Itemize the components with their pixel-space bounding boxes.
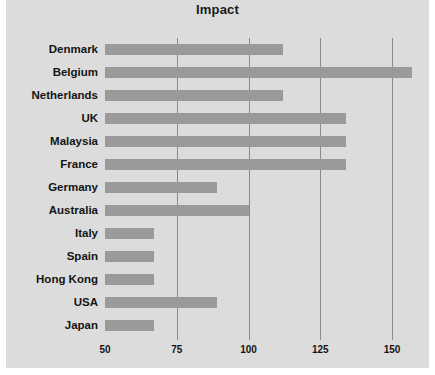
bar xyxy=(105,90,283,101)
bar-row: Spain xyxy=(6,245,429,268)
bar-row: UK xyxy=(6,107,429,130)
x-tick-label: 125 xyxy=(300,344,340,355)
bar xyxy=(105,67,412,78)
x-axis: 5075100125150 xyxy=(6,340,429,364)
category-label: UK xyxy=(6,107,98,130)
bar-row: USA xyxy=(6,291,429,314)
x-tick-label: 75 xyxy=(157,344,197,355)
bar xyxy=(105,228,154,239)
bar xyxy=(105,297,217,308)
category-label: Spain xyxy=(6,245,98,268)
category-label: France xyxy=(6,153,98,176)
bar xyxy=(105,274,154,285)
bar-row: Germany xyxy=(6,176,429,199)
bar-row: France xyxy=(6,153,429,176)
x-tick-label: 100 xyxy=(229,344,269,355)
bar xyxy=(105,320,154,331)
bar-row: Netherlands xyxy=(6,84,429,107)
category-label: Japan xyxy=(6,314,98,337)
chart-panel: Impact DenmarkBelgiumNetherlandsUKMalays… xyxy=(6,0,429,368)
bar-chart: Impact DenmarkBelgiumNetherlandsUKMalays… xyxy=(0,0,435,375)
bar xyxy=(105,44,283,55)
bar-row: Belgium xyxy=(6,61,429,84)
bar xyxy=(105,205,249,216)
bar xyxy=(105,136,346,147)
bar-row: Hong Kong xyxy=(6,268,429,291)
bar xyxy=(105,182,217,193)
bar-row: Japan xyxy=(6,314,429,337)
category-label: Netherlands xyxy=(6,84,98,107)
bar-row: Malaysia xyxy=(6,130,429,153)
category-label: Italy xyxy=(6,222,98,245)
bar-row: Australia xyxy=(6,199,429,222)
bar xyxy=(105,159,346,170)
category-label: USA xyxy=(6,291,98,314)
bar xyxy=(105,251,154,262)
category-label: Hong Kong xyxy=(6,268,98,291)
category-label: Denmark xyxy=(6,38,98,61)
chart-title: Impact xyxy=(6,2,429,17)
plot-area: DenmarkBelgiumNetherlandsUKMalaysiaFranc… xyxy=(6,38,429,340)
category-label: Belgium xyxy=(6,61,98,84)
category-label: Malaysia xyxy=(6,130,98,153)
category-label: Germany xyxy=(6,176,98,199)
x-tick-label: 150 xyxy=(372,344,412,355)
bar-row: Italy xyxy=(6,222,429,245)
bar xyxy=(105,113,346,124)
category-label: Australia xyxy=(6,199,98,222)
x-tick-label: 50 xyxy=(85,344,125,355)
bar-row: Denmark xyxy=(6,38,429,61)
